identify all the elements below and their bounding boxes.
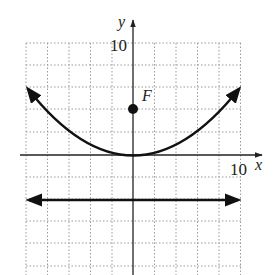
focus-point (128, 104, 138, 114)
x-axis-label: x (254, 156, 262, 173)
parabola-graph: F y 10 10 x (0, 0, 274, 275)
focus-label: F (141, 87, 152, 104)
y-tick-label: 10 (110, 36, 127, 55)
x-tick-label: 10 (230, 160, 247, 179)
y-axis-label: y (116, 13, 126, 31)
